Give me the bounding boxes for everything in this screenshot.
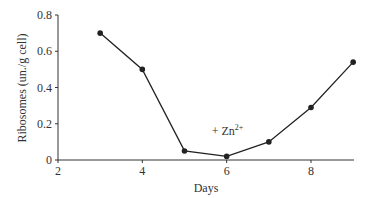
x-tick-label: 2 <box>55 164 61 178</box>
y-tick-label: 0.8 <box>37 8 52 22</box>
y-axis-label: Ribosomes (un./g cell) <box>15 34 29 143</box>
line-chart: 00.20.40.60.82468 + Zn2+ Days Ribosomes … <box>0 0 373 198</box>
annotation-zn: + Zn2+ <box>212 123 244 138</box>
x-axis-label: Days <box>194 181 219 195</box>
data-point-marker <box>182 148 188 154</box>
data-point-marker <box>266 139 272 145</box>
x-tick-label: 8 <box>308 164 314 178</box>
y-tick-label: 0.2 <box>37 117 52 131</box>
x-tick-label: 4 <box>139 164 145 178</box>
y-tick-label: 0 <box>46 153 52 167</box>
data-series <box>97 30 356 159</box>
annotations: + Zn2+ <box>212 123 244 138</box>
y-tick-label: 0.4 <box>37 81 52 95</box>
data-point-marker <box>140 67 146 73</box>
data-point-marker <box>224 154 230 160</box>
data-point-marker <box>350 59 356 65</box>
data-point-marker <box>97 30 103 36</box>
x-tick-label: 6 <box>224 164 230 178</box>
data-point-marker <box>308 105 314 111</box>
y-tick-label: 0.6 <box>37 44 52 58</box>
